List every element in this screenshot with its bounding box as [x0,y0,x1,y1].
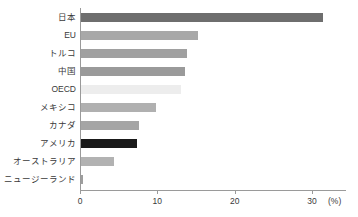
x-axis-tick-label: 20 [215,196,255,206]
bar-row: カナダ [0,116,358,134]
bar-row: EU [0,26,358,44]
bar-row: メキシコ [0,98,358,116]
bar [81,175,83,184]
bar [81,31,198,40]
bar-category-label: OECD [0,80,76,98]
bar [81,67,185,76]
x-axis-tick [235,190,236,194]
bar-row: トルコ [0,44,358,62]
bar-category-label: オーストラリア [0,152,76,170]
bar-category-label: アメリカ [0,134,76,152]
bar-row: 日本 [0,8,358,26]
x-axis-tick-label: 0 [60,196,100,206]
x-axis-tick-label: 10 [137,196,177,206]
bar [81,157,114,166]
bar-category-label: 中国 [0,62,76,80]
x-axis-tick [157,190,158,194]
x-axis-unit-label: (%) [328,196,341,206]
x-axis-tick [80,190,81,194]
bar-category-label: EU [0,26,76,44]
bar-category-label: ニュージーランド [0,170,76,188]
bar-category-label: トルコ [0,44,76,62]
bar [81,49,187,58]
bar [81,121,139,130]
bar-row: オーストラリア [0,152,358,170]
bar [81,13,323,22]
bar [81,139,137,148]
bar [81,85,181,94]
bar-row: 中国 [0,62,358,80]
x-axis-line [80,190,346,191]
bar-row: ニュージーランド [0,170,358,188]
x-axis-tick-label: 30 [292,196,332,206]
bar [81,103,156,112]
bar-chart: 日本EUトルコ中国OECDメキシコカナダアメリカオーストラリアニュージーランド … [0,0,358,217]
bar-row: アメリカ [0,134,358,152]
bar-category-label: カナダ [0,116,76,134]
bar-category-label: メキシコ [0,98,76,116]
bar-row: OECD [0,80,358,98]
x-axis-tick [312,190,313,194]
bar-category-label: 日本 [0,8,76,26]
